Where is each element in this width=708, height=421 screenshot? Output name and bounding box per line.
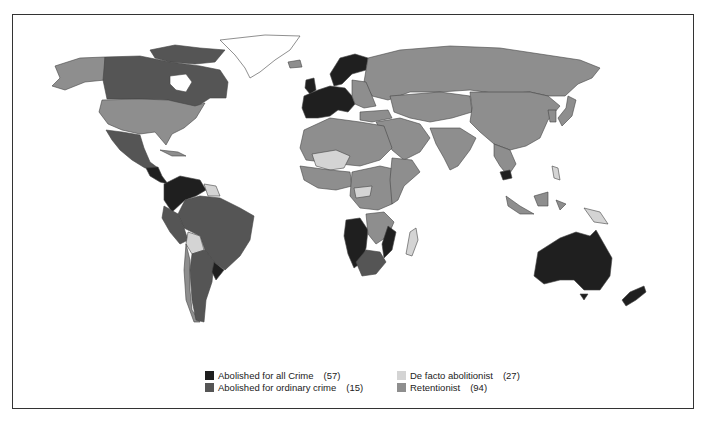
region-tasmania bbox=[580, 294, 588, 300]
legend-item-de-facto: De facto abolitionist (27) bbox=[397, 370, 520, 381]
legend-item-abolished-ordinary: Abolished for ordinary crime (15) bbox=[205, 382, 363, 393]
region-australia bbox=[534, 230, 612, 290]
legend-count: (27) bbox=[503, 370, 520, 381]
legend-count: (94) bbox=[470, 382, 487, 393]
region-greenland bbox=[220, 35, 300, 78]
region-iceland bbox=[288, 60, 302, 68]
region-argentina bbox=[190, 250, 214, 322]
region-madagascar bbox=[406, 228, 418, 256]
legend-count: (57) bbox=[324, 370, 341, 381]
region-japan bbox=[558, 96, 576, 126]
region-philippines bbox=[552, 166, 560, 180]
legend-label: Abolished for all Crime bbox=[218, 370, 314, 381]
swatch-de-facto bbox=[397, 371, 406, 380]
world-map bbox=[0, 0, 708, 421]
region-india bbox=[430, 128, 476, 170]
region-png bbox=[584, 208, 608, 224]
legend-label: De facto abolitionist bbox=[410, 370, 493, 381]
region-new-zealand bbox=[622, 286, 646, 306]
region-west-africa bbox=[300, 166, 352, 190]
region-alaska bbox=[52, 57, 105, 90]
legend-item-retentionist: Retentionist (94) bbox=[397, 382, 487, 393]
region-central-asia bbox=[390, 92, 472, 122]
legend-item-abolished-all: Abolished for all Crime (57) bbox=[205, 370, 340, 381]
region-east-africa bbox=[390, 158, 420, 204]
region-indonesia bbox=[506, 192, 566, 214]
legend-label: Retentionist bbox=[410, 382, 460, 393]
legend-label: Abolished for ordinary crime bbox=[218, 382, 336, 393]
region-cambodia bbox=[500, 170, 512, 180]
region-guianas bbox=[204, 184, 220, 196]
swatch-retentionist bbox=[397, 383, 406, 392]
region-mexico bbox=[106, 130, 158, 168]
region-car bbox=[354, 186, 372, 198]
region-cuba bbox=[160, 150, 186, 156]
region-china bbox=[470, 92, 560, 150]
region-central-america bbox=[146, 167, 168, 184]
swatch-abolished-ordinary bbox=[205, 383, 214, 392]
swatch-abolished-all bbox=[205, 371, 214, 380]
region-korea bbox=[548, 110, 556, 122]
legend-count: (15) bbox=[346, 382, 363, 393]
